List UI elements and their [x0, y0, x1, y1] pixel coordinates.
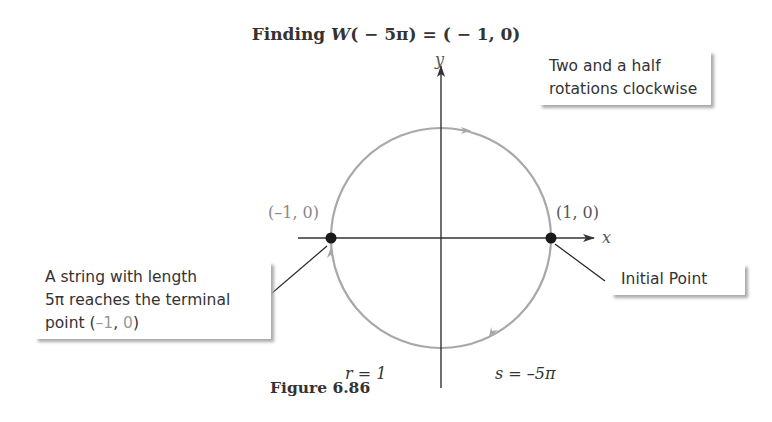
x-axis-label: x: [602, 228, 611, 247]
terminal-point-marker: [326, 233, 337, 244]
callout-terminal-line3: point (–1, 0): [45, 312, 261, 335]
terminal-point-label: (–1, 0): [268, 203, 319, 222]
arc-length-label: s = –5π: [495, 364, 555, 383]
line3-suffix: ): [133, 314, 139, 332]
line3-comma: ,: [113, 314, 123, 332]
y-axis-label: y: [435, 50, 444, 69]
line3-prefix: point (: [45, 314, 96, 332]
callout-rotations: Two and a half rotations clockwise: [539, 51, 711, 105]
callout-rotations-line2: rotations clockwise: [549, 78, 701, 101]
initial-point-label: (1, 0): [556, 203, 599, 222]
leader-line-initial: [555, 244, 605, 281]
initial-point-marker: [546, 233, 557, 244]
callout-rotations-line1: Two and a half: [549, 55, 701, 78]
callout-terminal-line1: A string with length: [45, 266, 261, 289]
callout-initial-point: Initial Point: [611, 264, 745, 295]
figure-caption: Figure 6.86: [270, 378, 370, 397]
callout-initial-text: Initial Point: [621, 268, 735, 291]
line3-y-value: 0: [123, 314, 133, 332]
callout-terminal-line2: 5π reaches the terminal: [45, 289, 261, 312]
line3-x-value: –1: [96, 314, 114, 332]
callout-terminal-point: A string with length 5π reaches the term…: [35, 262, 271, 339]
